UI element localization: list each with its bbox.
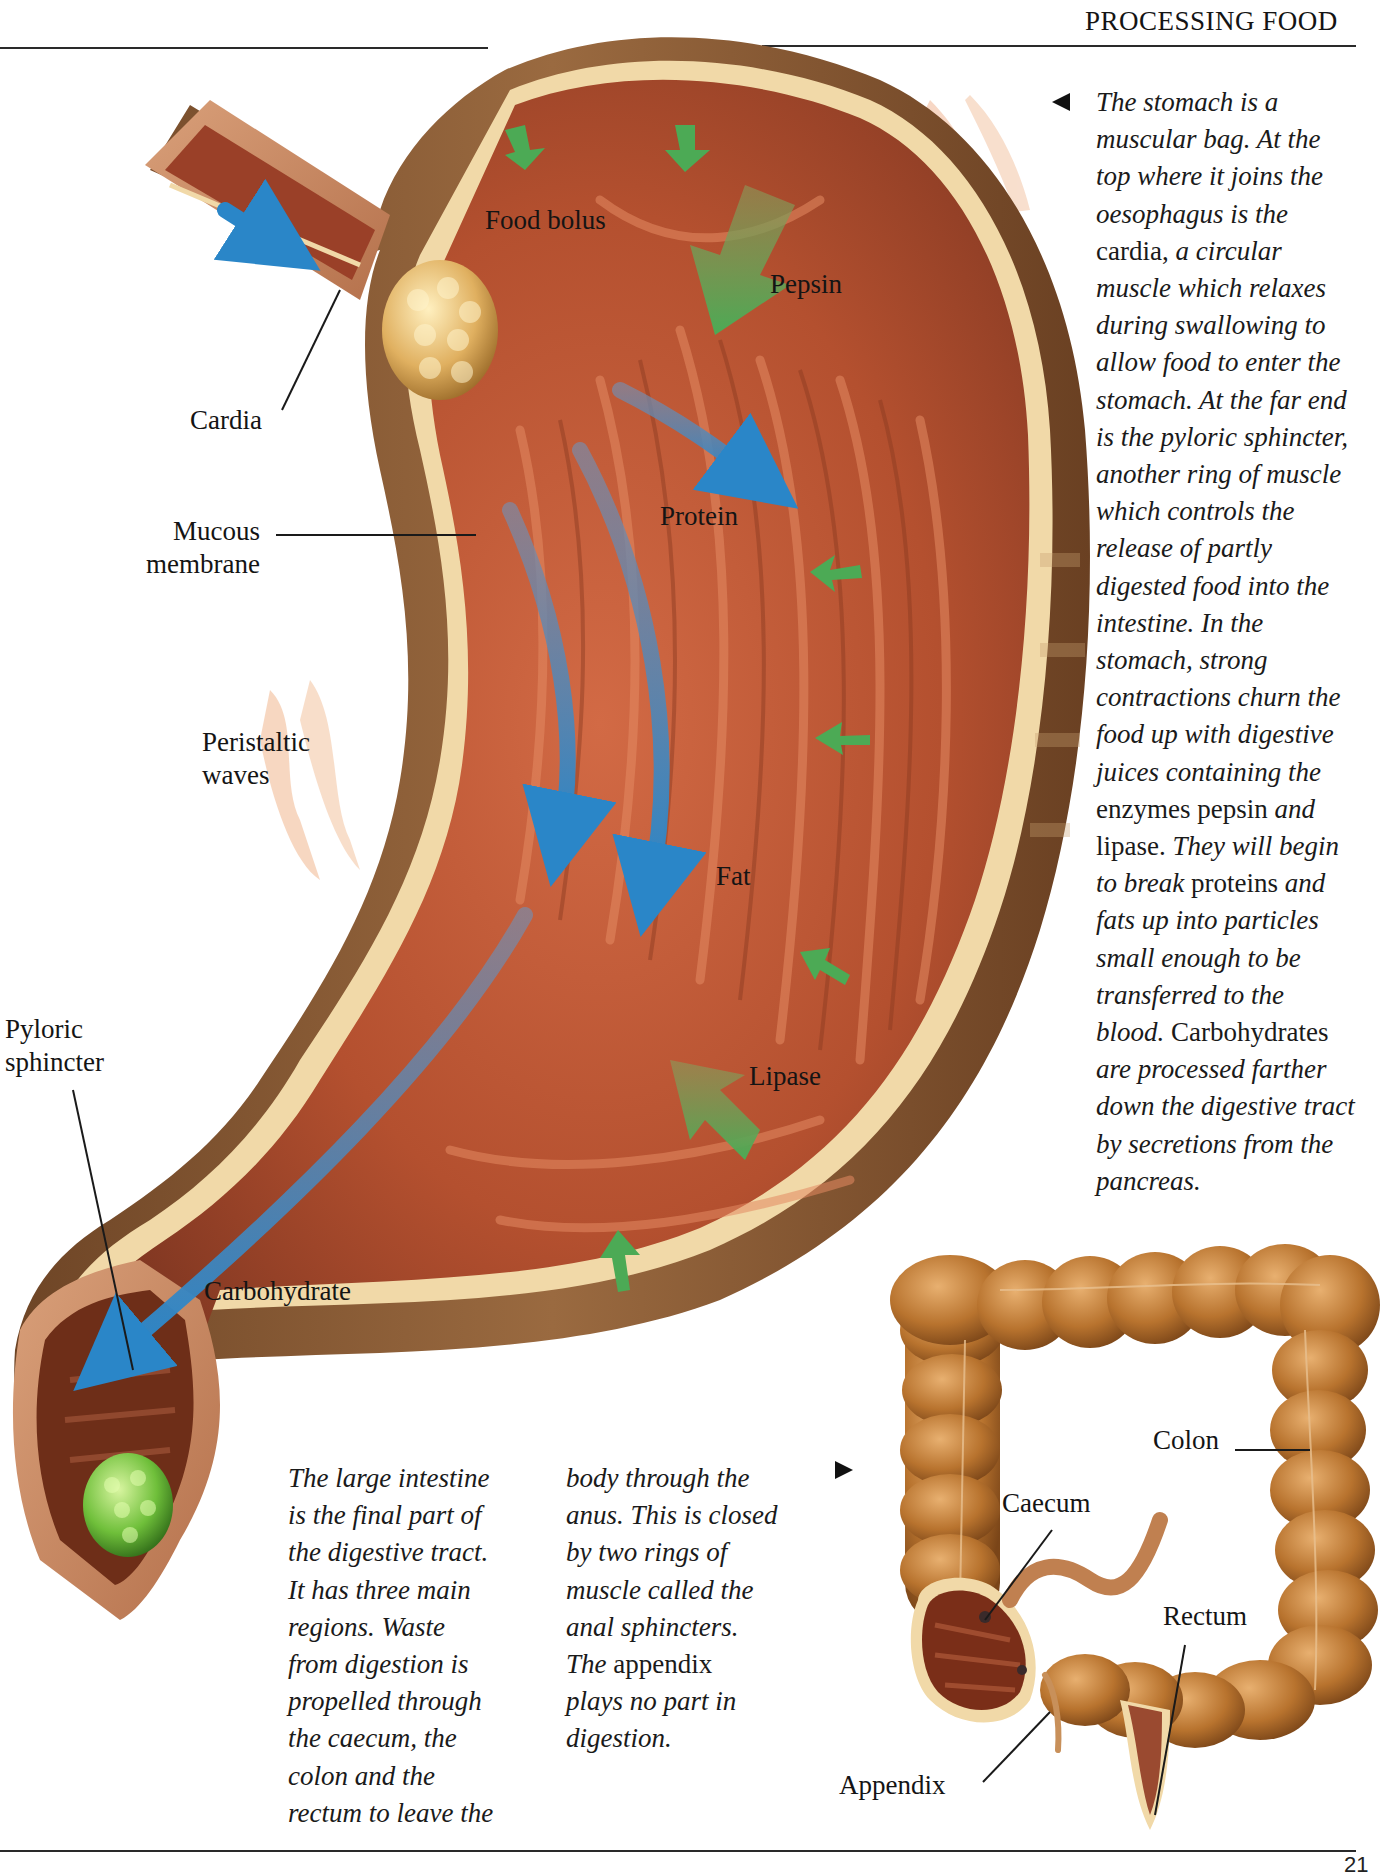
caption-line: lipase. They will begin [1096,828,1391,865]
food-bolus-illustration [382,260,498,400]
caption-line: regions. Waste [288,1609,558,1646]
caption-line: cardia, a circular [1096,233,1391,270]
caption-line: plays no part in [566,1683,826,1720]
descending-colon [1268,1330,1378,1705]
caption-line: the caecum, the [288,1720,558,1757]
caption-line: contractions churn the [1096,679,1391,716]
label-pyloric-line2: sphincter [5,1046,104,1079]
label-mucous-line1: Mucous [112,515,260,548]
label-pyloric-line1: Pyloric [5,1013,104,1046]
label-cardia: Cardia [190,404,262,437]
caption-line: muscular bag. At the [1096,121,1391,158]
caption-line: by secretions from the [1096,1126,1391,1163]
caption-line: anus. This is closed [566,1497,826,1534]
caption-line: digested food into the [1096,568,1391,605]
label-caecum: Caecum [1002,1487,1090,1520]
caption-line: is the pyloric sphincter, [1096,419,1391,456]
label-pyloric-sphincter: Pyloric sphincter [5,1013,104,1079]
caption-line: oesophagus is the [1096,196,1391,233]
triangle-left-icon [1052,93,1070,111]
caption-line: another ring of muscle [1096,456,1391,493]
caption-line: digestion. [566,1720,826,1757]
caption-line: stomach, strong [1096,642,1391,679]
caption-line: allow food to enter the [1096,344,1391,381]
caption-line: colon and the [288,1758,558,1795]
caption-line: The large intestine [288,1460,558,1497]
caption-line: enzymes pepsin and [1096,791,1391,828]
label-appendix: Appendix [839,1769,945,1802]
label-mucous-line2: membrane [112,548,260,581]
caption-line: the digestive tract. [288,1534,558,1571]
caption-line: rectum to leave the [288,1795,558,1832]
caption-line: The appendix [566,1646,826,1683]
caption-line: pancreas. [1096,1163,1391,1200]
caption-line: small enough to be [1096,940,1391,977]
caption-line: It has three main [288,1572,558,1609]
caption-line: juices containing the [1096,754,1391,791]
label-rectum: Rectum [1163,1600,1247,1633]
caption-line: muscle called the [566,1572,826,1609]
rectum [1120,1700,1170,1830]
caption-line: propelled through [288,1683,558,1720]
caption-line: during swallowing to [1096,307,1391,344]
caption-line: are processed farther [1096,1051,1391,1088]
label-peristaltic-line2: waves [202,759,310,792]
caption-line: from digestion is [288,1646,558,1683]
caption-line: fats up into particles [1096,902,1391,939]
caption-line: release of partly [1096,530,1391,567]
caption-line: top where it joins the [1096,158,1391,195]
caption-line: blood. Carbohydrates [1096,1014,1391,1051]
caption-line: stomach. At the far end [1096,382,1391,419]
ileum [1010,1520,1160,1600]
label-mucous-membrane: Mucous membrane [112,515,260,581]
label-fat: Fat [716,860,751,893]
caption-line: food up with digestive [1096,716,1391,753]
large-intestine-illustration [890,1244,1380,1830]
label-peristaltic-waves: Peristaltic waves [202,726,310,792]
caption-line: by two rings of [566,1534,826,1571]
caption-line: which controls the [1096,493,1391,530]
triangle-right-icon [835,1461,853,1479]
intestine-caption-col1: The large intestine is the final part of… [288,1460,558,1832]
label-colon: Colon [1153,1424,1219,1457]
caption-line: to break proteins and [1096,865,1391,902]
caption-line: muscle which relaxes [1096,270,1391,307]
caption-line: The stomach is a [1096,84,1391,121]
label-protein: Protein [660,500,738,533]
label-food-bolus: Food bolus [485,204,606,237]
waste-illustration [83,1453,173,1557]
caption-line: anal sphincters. [566,1609,826,1646]
caption-line: down the digestive tract [1096,1088,1391,1125]
label-carbohydrate: Carbohydrate [204,1275,351,1308]
stomach-caption: The stomach is a muscular bag. At the to… [1096,84,1391,1200]
label-lipase: Lipase [749,1060,821,1093]
caption-line: is the final part of [288,1497,558,1534]
sigmoid-colon [1040,1654,1315,1748]
label-peristaltic-line1: Peristaltic [202,726,310,759]
caption-line: intestine. In the [1096,605,1391,642]
label-pepsin: Pepsin [770,268,842,301]
caption-line: body through the [566,1460,826,1497]
caption-line: transferred to the [1096,977,1391,1014]
intestine-caption-col2: body through the anus. This is closed by… [566,1460,826,1758]
